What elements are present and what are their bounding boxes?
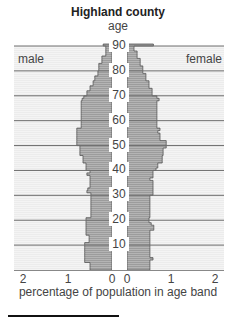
age-tick-50: 50 bbox=[109, 138, 129, 152]
male-label: male bbox=[18, 52, 44, 66]
age-tick-40: 40 bbox=[109, 162, 129, 176]
male-bars bbox=[77, 44, 112, 270]
age-tick-60: 60 bbox=[109, 113, 129, 127]
x-tick-right-0: 0 bbox=[120, 272, 134, 286]
x-tick-right-2: 2 bbox=[208, 272, 222, 286]
x-axis-label: percentage of population in age band bbox=[0, 285, 236, 299]
x-axis-line bbox=[14, 270, 224, 271]
female-label: female bbox=[186, 52, 222, 66]
age-tick-30: 30 bbox=[109, 187, 129, 201]
x-tick-left-2: 2 bbox=[16, 272, 30, 286]
female-bars bbox=[127, 44, 166, 270]
x-tick-left-1: 1 bbox=[61, 272, 75, 286]
age-tick-70: 70 bbox=[109, 88, 129, 102]
age-tick-80: 80 bbox=[109, 63, 129, 77]
x-tick-right-1: 1 bbox=[164, 272, 178, 286]
x-tick-left-0: 0 bbox=[105, 272, 119, 286]
age-tick-10: 10 bbox=[109, 237, 129, 251]
age-tick-90: 90 bbox=[109, 38, 129, 52]
age-tick-20: 20 bbox=[109, 212, 129, 226]
